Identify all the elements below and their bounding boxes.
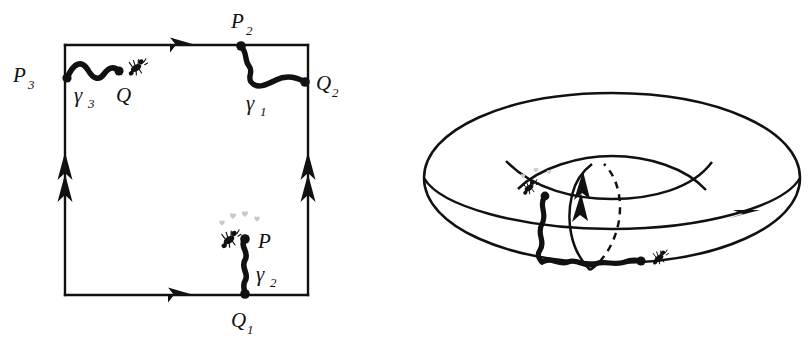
fundamental-polygon: P 3 γ 3 Q P 2 γ 1 Q 2 P γ 2 Q 1 [12, 9, 339, 337]
edge-bottom-arrowhead [168, 288, 194, 303]
label-Q2: Q [316, 71, 331, 95]
ant-icon [126, 58, 149, 77]
torus-outer-bottom [424, 178, 800, 263]
label-gamma3: γ [74, 83, 83, 107]
path-gamma3 [62, 64, 123, 83]
label-gamma1-subscript: 1 [260, 104, 267, 119]
endpoint-Q [114, 66, 123, 75]
figure-canvas: P 3 γ 3 Q P 2 γ 1 Q 2 P γ 2 Q 1 [0, 0, 811, 351]
ant-icon [218, 229, 242, 249]
torus-equator-curve [424, 178, 800, 229]
label-Q: Q [116, 83, 131, 107]
path-gamma2 [240, 234, 250, 299]
torus-path-horizontal [542, 260, 641, 265]
label-Q1: Q [231, 308, 246, 332]
label-gamma3-subscript: 3 [87, 96, 95, 111]
endpoint-Q2 [300, 77, 310, 87]
label-P3-subscript: 3 [27, 77, 35, 92]
label-P2: P [230, 9, 244, 33]
torus [424, 93, 800, 270]
label-Q2-subscript: 2 [332, 85, 339, 100]
edge-left-arrowheads [58, 152, 73, 202]
endpoint-P2 [236, 41, 246, 51]
label-gamma2: γ [256, 262, 265, 286]
label-P: P [257, 229, 271, 253]
diagram-svg: P 3 γ 3 Q P 2 γ 1 Q 2 P γ 2 Q 1 [0, 0, 811, 351]
ant-icon [520, 179, 540, 196]
ant-icon [651, 249, 671, 265]
torus-path-horizontal-endpoint [636, 256, 645, 265]
edge-right-arrowheads [301, 152, 316, 202]
meridian-back [590, 164, 620, 270]
label-P3: P [12, 63, 26, 87]
endpoint-Q1 [240, 289, 250, 299]
torus-path-vertical-endpoint [541, 192, 550, 201]
torus-outer-top [424, 93, 800, 178]
endpoint-P3 [62, 73, 71, 82]
label-Q1-subscript: 1 [247, 322, 254, 337]
edge-top-arrowhead [170, 38, 196, 53]
endpoint-P [240, 234, 250, 244]
path-gamma1 [236, 41, 310, 87]
heart-icon-group [219, 211, 259, 225]
torus-path-vertical [538, 196, 545, 262]
label-gamma1: γ [246, 91, 255, 115]
label-gamma2-subscript: 2 [270, 275, 277, 290]
label-P2-subscript: 2 [246, 23, 253, 38]
